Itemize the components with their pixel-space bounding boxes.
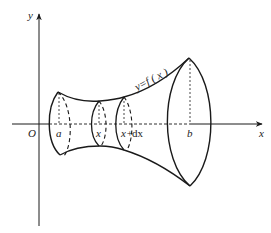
y-axis-label: y (27, 9, 33, 21)
point-dx-label: dx (132, 127, 144, 139)
point-a-label: a (56, 127, 62, 139)
slice-xdx-back (124, 97, 132, 150)
slice-xdx-front (116, 97, 124, 150)
upper-curve (58, 58, 189, 101)
right-cap-left-arc (167, 58, 190, 186)
point-b-label: b (187, 127, 193, 139)
curve-label: y=f ( x ) (131, 65, 170, 94)
x-axis-label: x (258, 127, 264, 139)
solid-of-revolution-diagram: y x O a x x+ dx b y=f ( x ) (0, 0, 271, 233)
left-cap-front (49, 92, 60, 155)
slice-x-back (99, 101, 106, 146)
point-x-label: x (95, 127, 101, 139)
right-cap-right-arc (189, 58, 211, 186)
origin-label: O (28, 127, 36, 139)
slice-x-front (92, 101, 100, 146)
